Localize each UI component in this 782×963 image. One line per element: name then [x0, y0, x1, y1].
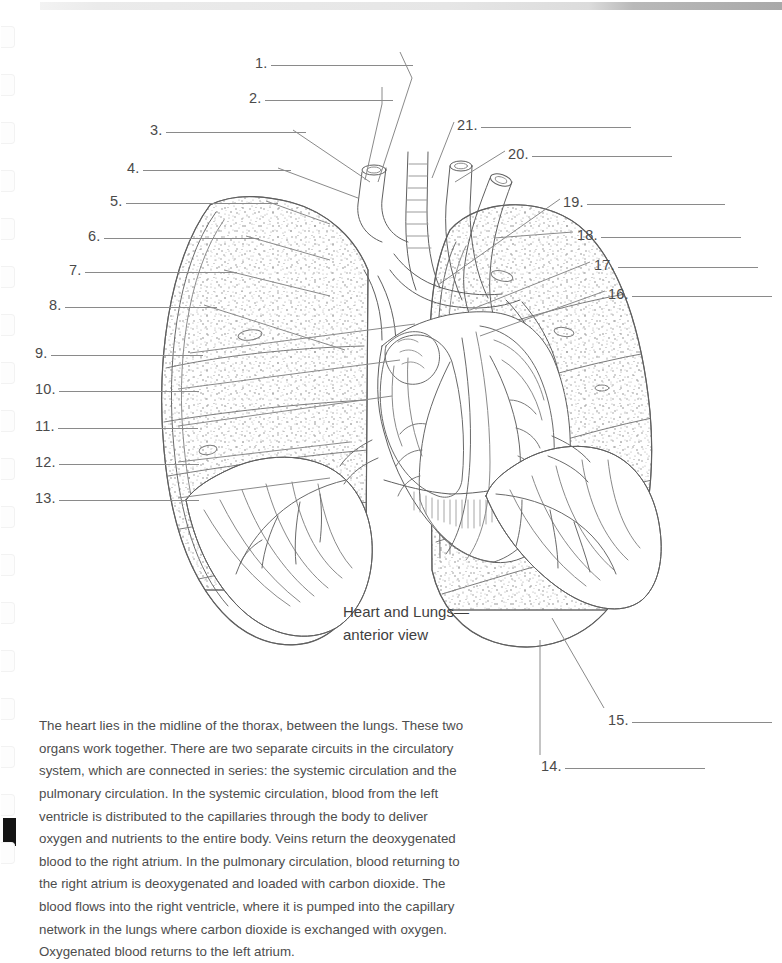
- binding-hole: [1, 266, 15, 288]
- binding-hole: [1, 458, 15, 480]
- label-blank-rule[interactable]: [587, 204, 725, 205]
- label-10[interactable]: 10.: [35, 380, 199, 398]
- label-6[interactable]: 6.: [88, 227, 259, 245]
- spiral-binding-margin: [0, 0, 20, 884]
- label-number: 13.: [35, 490, 56, 506]
- label-blank-rule[interactable]: [265, 100, 393, 101]
- label-number: 8.: [49, 297, 62, 313]
- label-1[interactable]: 1.: [255, 54, 413, 72]
- label-14[interactable]: 14.: [541, 757, 705, 775]
- label-number: 9.: [35, 345, 48, 361]
- label-number: 2.: [249, 90, 262, 106]
- label-number: 11.: [35, 418, 55, 434]
- label-number: 10.: [35, 381, 56, 397]
- label-blank-rule[interactable]: [126, 203, 278, 204]
- label-13[interactable]: 13.: [35, 489, 199, 507]
- binding-hole: [1, 26, 15, 48]
- label-21[interactable]: 21.: [457, 116, 631, 134]
- label-11[interactable]: 11.: [35, 417, 198, 435]
- label-3[interactable]: 3.: [150, 121, 306, 139]
- label-12[interactable]: 12.: [35, 453, 199, 471]
- label-18[interactable]: 18.: [577, 226, 741, 244]
- label-17[interactable]: 17.: [594, 256, 758, 274]
- label-blank-rule[interactable]: [104, 238, 259, 239]
- binding-hole: [1, 506, 15, 528]
- label-blank-rule[interactable]: [58, 428, 198, 429]
- binding-hole: [1, 554, 15, 576]
- label-number: 12.: [35, 454, 56, 470]
- binding-hole: [1, 122, 15, 144]
- body-paragraph: The heart lies in the midline of the tho…: [39, 715, 471, 963]
- label-blank-rule[interactable]: [601, 237, 741, 238]
- binding-hole: [1, 410, 15, 432]
- binding-hole: [1, 698, 15, 720]
- binding-hole: [1, 362, 15, 384]
- figure-caption: Heart and Lungs— anterior view: [343, 600, 543, 646]
- label-4[interactable]: 4.: [127, 159, 291, 177]
- label-number: 1.: [255, 55, 268, 71]
- binding-hole: [1, 218, 15, 240]
- label-blank-rule[interactable]: [632, 722, 772, 723]
- binding-hole: [1, 794, 15, 816]
- label-9[interactable]: 9.: [35, 344, 203, 362]
- binding-hole: [1, 74, 15, 96]
- label-number: 5.: [110, 193, 123, 209]
- label-number: 7.: [69, 262, 82, 278]
- binding-hole: [1, 170, 15, 192]
- binding-hole: [1, 746, 15, 768]
- binding-hole: [1, 842, 15, 864]
- scrollbar-track[interactable]: [38, 2, 782, 10]
- binding-hole: [1, 314, 15, 336]
- label-blank-rule[interactable]: [481, 127, 631, 128]
- label-blank-rule[interactable]: [59, 464, 199, 465]
- label-blank-rule[interactable]: [65, 307, 217, 308]
- label-number: 4.: [127, 160, 140, 176]
- top-scrollbar[interactable]: [0, 0, 782, 12]
- label-blank-rule[interactable]: [632, 296, 772, 297]
- binding-hole: [1, 602, 15, 624]
- label-5[interactable]: 5.: [110, 192, 278, 210]
- label-blank-rule[interactable]: [143, 170, 291, 171]
- label-blank-rule[interactable]: [59, 391, 199, 392]
- label-15[interactable]: 15.: [608, 711, 772, 729]
- label-blank-rule[interactable]: [565, 768, 705, 769]
- label-16[interactable]: 16.: [608, 285, 772, 303]
- label-20[interactable]: 20.: [508, 145, 672, 163]
- label-blank-rule[interactable]: [85, 272, 237, 273]
- label-8[interactable]: 8.: [49, 296, 217, 314]
- caption-line-2: anterior view: [343, 623, 543, 646]
- label-number: 3.: [150, 122, 163, 138]
- label-blank-rule[interactable]: [271, 65, 413, 66]
- label-2[interactable]: 2.: [249, 89, 393, 107]
- label-number: 18.: [577, 227, 598, 243]
- label-number: 15.: [608, 712, 629, 728]
- label-blank-rule[interactable]: [532, 156, 672, 157]
- label-number: 20.: [508, 146, 529, 162]
- label-blank-rule[interactable]: [59, 500, 199, 501]
- binding-hole: [1, 650, 15, 672]
- label-blank-rule[interactable]: [51, 355, 203, 356]
- label-number: 21.: [457, 117, 478, 133]
- label-number: 6.: [88, 228, 101, 244]
- label-number: 14.: [541, 758, 562, 774]
- label-number: 16.: [608, 286, 629, 302]
- label-7[interactable]: 7.: [69, 261, 237, 279]
- caption-line-1: Heart and Lungs—: [343, 600, 543, 623]
- label-number: 19.: [563, 194, 584, 210]
- label-blank-rule[interactable]: [618, 267, 758, 268]
- label-blank-rule[interactable]: [166, 132, 306, 133]
- label-19[interactable]: 19.: [563, 193, 725, 211]
- label-number: 17.: [594, 257, 615, 273]
